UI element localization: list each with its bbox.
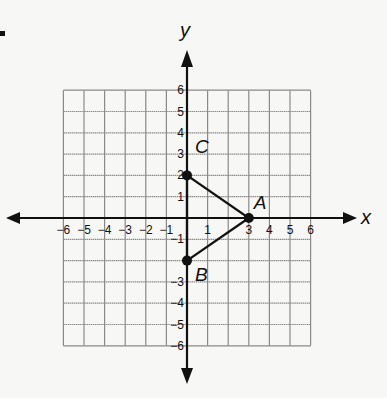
y-tick-label: −5 [170, 318, 184, 332]
y-tick-label: 6 [177, 83, 184, 97]
x-axis-right-arrow-icon [343, 212, 357, 224]
point-label-c: C [195, 136, 209, 157]
x-tick-label: 5 [287, 223, 294, 237]
x-tick-label: −4 [98, 223, 112, 237]
x-axis-left-arrow-icon [6, 212, 20, 224]
point-b [182, 256, 192, 266]
point-c [182, 170, 192, 180]
y-axis-up-arrow-icon [181, 50, 193, 67]
point-label-a: A [253, 192, 267, 213]
y-tick-label: −6 [170, 339, 184, 353]
x-tick-label: 6 [307, 223, 314, 237]
y-tick-label: −4 [170, 296, 184, 310]
point-a [244, 213, 254, 223]
point-label-b: B [195, 264, 208, 285]
y-axis-down-arrow-icon [181, 368, 193, 384]
y-tick-label: −1 [170, 232, 184, 246]
x-tick-label: 4 [266, 223, 273, 237]
x-tick-label: 3 [245, 223, 252, 237]
x-tick-label: −3 [118, 223, 132, 237]
y-tick-label: 1 [177, 190, 184, 204]
y-tick-label: 3 [177, 147, 184, 161]
coordinate-plane: −6−5−4−3−2−113456654321−1−3−4−5−6 ABC x … [0, 0, 387, 398]
x-tick-label: −5 [77, 223, 91, 237]
x-axis-label: x [360, 206, 372, 228]
y-tick-label: 4 [177, 126, 184, 140]
y-axis-label: y [178, 19, 191, 41]
axes [6, 50, 357, 384]
x-tick-label: −6 [57, 223, 71, 237]
y-tick-label: 5 [177, 105, 184, 119]
x-tick-label: −2 [139, 223, 153, 237]
y-tick-label: −3 [170, 275, 184, 289]
x-tick-label: 1 [204, 223, 211, 237]
triangle-abc: ABC [182, 136, 266, 284]
